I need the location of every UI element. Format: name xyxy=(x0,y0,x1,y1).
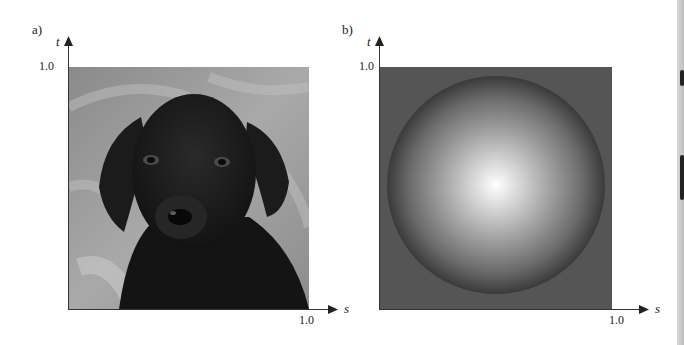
panel-a-t-arrow-icon xyxy=(64,36,73,46)
panel-a-s-arrow-icon xyxy=(328,305,338,314)
panel-b-t-axis-label: t xyxy=(367,34,371,50)
panel-b-t-tick: 1.0 xyxy=(359,59,374,74)
puppy-image xyxy=(69,67,309,309)
panel-a-s-axis-label: s xyxy=(344,301,349,317)
panel-a-label: a) xyxy=(32,22,42,38)
panel-b-s-axis-label: s xyxy=(655,301,660,317)
panel-a-t-tick: 1.0 xyxy=(39,59,54,74)
page-edge-mark xyxy=(680,155,684,200)
panel-a-t-axis-label: t xyxy=(56,34,60,50)
panel-b-label: b) xyxy=(342,22,353,38)
panel-b-s-axis xyxy=(379,309,641,310)
sphere-image xyxy=(380,67,612,309)
panel-b-s-tick: 1.0 xyxy=(609,313,624,328)
panel-b-s-arrow-icon xyxy=(639,305,649,314)
panel-a-s-axis xyxy=(68,309,330,310)
panel-b-t-arrow-icon xyxy=(375,36,384,46)
page-edge-mark xyxy=(680,70,684,86)
panel-a-s-tick: 1.0 xyxy=(299,313,314,328)
